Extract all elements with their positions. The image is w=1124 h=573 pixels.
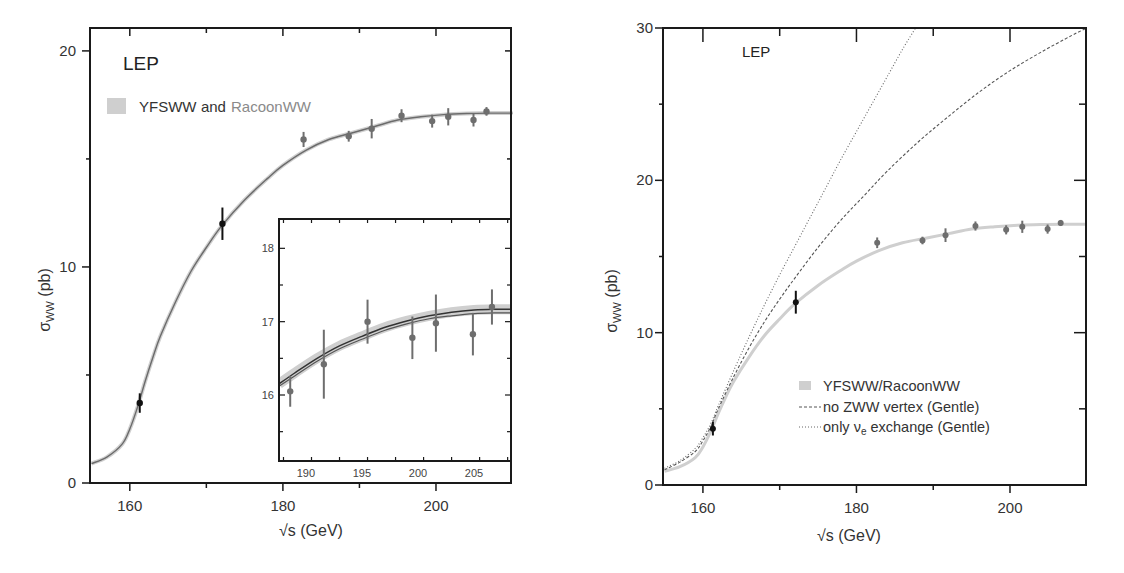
left-x-axis-title: √s (GeV) <box>279 522 343 539</box>
x-tick-label: 200 <box>423 497 448 514</box>
data-point <box>793 299 799 305</box>
figure-canvas: 16018020001020 LEP YFSWWandRacoonWW σWW … <box>0 0 1124 573</box>
x-tick-label: 180 <box>844 499 869 516</box>
right-axis-ticks: 1601802000102030 <box>636 19 1086 516</box>
data-point <box>219 221 225 227</box>
inset-y-tick-label: 18 <box>262 242 274 254</box>
data-point <box>483 108 489 114</box>
inset-y-tick-label: 17 <box>262 316 274 328</box>
right-y-axis-title: σWW (pb) <box>603 269 623 333</box>
right-legend: YFSWW/RacoonWW no ZWW vertex (Gentle) on… <box>799 378 990 437</box>
inset-y-tick-label: 16 <box>262 389 274 401</box>
data-point <box>137 400 143 406</box>
legend-band-swatch <box>799 381 811 390</box>
data-point <box>364 318 370 324</box>
data-point <box>287 388 293 394</box>
data-point <box>398 113 404 119</box>
y-tick-label: 20 <box>59 42 76 59</box>
data-point <box>300 136 306 142</box>
right-lep-annotation: LEP <box>742 43 770 60</box>
left-y-axis-title: σWW (pb) <box>36 268 56 332</box>
legend-band-swatch <box>107 98 126 114</box>
inset-background <box>279 219 511 461</box>
data-point <box>1019 224 1025 230</box>
data-point <box>972 223 978 229</box>
right-plot: 1601802000102030 LEP YFSWW/RacoonWW no Z… <box>603 19 1087 544</box>
x-tick-label: 160 <box>690 499 715 516</box>
data-point <box>1003 227 1009 233</box>
data-point <box>470 117 476 123</box>
data-point <box>1045 226 1051 232</box>
y-tick-label: 30 <box>636 19 653 36</box>
data-point <box>321 361 327 367</box>
inset-x-tick-label: 200 <box>409 467 427 479</box>
x-tick-label: 200 <box>997 499 1022 516</box>
inset-x-tick-label: 205 <box>465 467 483 479</box>
left-legend: YFSWWandRacoonWW <box>107 98 312 115</box>
left-plot: 16018020001020 LEP YFSWWandRacoonWW σWW … <box>36 28 513 539</box>
inset-x-tick-label: 195 <box>353 467 371 479</box>
data-point <box>433 320 439 326</box>
data-point <box>409 335 415 341</box>
data-point <box>943 232 949 238</box>
legend-label: YFSWWandRacoonWW <box>139 98 312 115</box>
data-point <box>368 125 374 131</box>
data-point <box>470 331 476 337</box>
data-point <box>919 238 925 244</box>
data-point <box>1058 220 1064 226</box>
legend-label-no-zww: no ZWW vertex (Gentle) <box>823 399 979 415</box>
y-tick-label: 20 <box>636 171 653 188</box>
inset-x-tick-label: 190 <box>297 467 315 479</box>
data-point <box>489 304 495 310</box>
right-x-axis-title: √s (GeV) <box>817 527 881 544</box>
y-tick-label: 0 <box>645 476 653 493</box>
y-tick-label: 10 <box>59 258 76 275</box>
data-point <box>346 133 352 139</box>
x-tick-label: 160 <box>117 497 142 514</box>
x-tick-label: 180 <box>270 497 295 514</box>
data-point <box>710 426 716 432</box>
legend-label-nue: only νe exchange (Gentle) <box>823 419 990 437</box>
legend-label-yfsww: YFSWW/RacoonWW <box>823 378 960 394</box>
y-tick-label: 10 <box>636 324 653 341</box>
left-lep-annotation: LEP <box>123 53 159 74</box>
inset-plot: 190195200205161718 <box>262 219 511 479</box>
right-plot-frame <box>663 28 1086 485</box>
data-point <box>445 114 451 120</box>
data-point <box>429 118 435 124</box>
y-tick-label: 0 <box>68 474 76 491</box>
data-point <box>874 240 880 246</box>
